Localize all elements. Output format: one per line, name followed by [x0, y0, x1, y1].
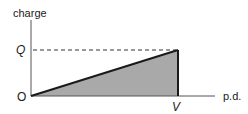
x-axis-label: p.d. — [223, 91, 241, 102]
q-label: Q — [16, 44, 25, 56]
y-axis-label: charge — [13, 8, 47, 19]
origin-label: O — [17, 91, 26, 103]
v-label: V — [172, 101, 180, 113]
